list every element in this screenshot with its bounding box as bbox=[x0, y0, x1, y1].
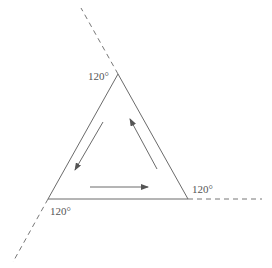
top-extension bbox=[81, 8, 118, 74]
dashed-extensions bbox=[13, 8, 262, 262]
arrow-left-side-down bbox=[75, 122, 103, 170]
angle-label-bottom-left: 120° bbox=[50, 206, 71, 217]
angle-label-top: 120° bbox=[88, 71, 109, 82]
arrow-right-side-up bbox=[130, 119, 157, 169]
bottom-left-extension bbox=[13, 199, 48, 262]
triangle-diagram bbox=[0, 0, 272, 268]
triangle bbox=[48, 74, 188, 199]
angle-label-bottom-right: 120° bbox=[192, 184, 213, 195]
